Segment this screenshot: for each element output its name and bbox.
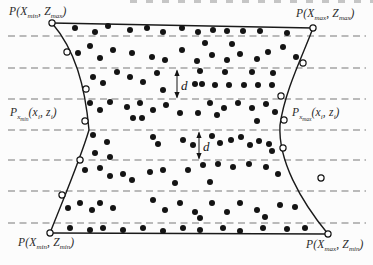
label-subscript: min bbox=[60, 243, 71, 251]
data-point bbox=[100, 225, 106, 231]
data-point bbox=[180, 225, 186, 231]
data-point bbox=[241, 82, 247, 88]
data-point bbox=[129, 177, 135, 183]
label-subscript: max bbox=[339, 14, 351, 22]
data-point bbox=[263, 164, 269, 170]
data-point bbox=[224, 28, 230, 34]
slice-thickness-marker: d bbox=[196, 132, 210, 160]
data-point bbox=[129, 50, 135, 56]
data-point bbox=[162, 57, 168, 63]
data-point bbox=[270, 70, 276, 76]
boundary-point bbox=[49, 20, 55, 26]
data-point bbox=[162, 207, 168, 213]
data-point bbox=[229, 41, 235, 47]
label-p-xmax-zmax: P(Xmax, Zmax) bbox=[296, 7, 355, 20]
label-text: , z bbox=[323, 106, 334, 118]
data-point bbox=[209, 200, 215, 206]
data-point bbox=[302, 225, 308, 231]
slice-thickness-marker: d bbox=[174, 70, 188, 99]
data-point bbox=[255, 82, 261, 88]
data-point bbox=[67, 225, 73, 231]
data-point bbox=[97, 200, 103, 206]
data-point bbox=[195, 29, 201, 35]
data-point bbox=[100, 80, 106, 86]
boundary-point bbox=[318, 175, 324, 181]
label-p-xmax-boundary-point: Pxmax(xi, zi) bbox=[292, 106, 340, 120]
data-point bbox=[127, 27, 133, 33]
label-p-xmin-zmax: P(Xmin, Zmax) bbox=[9, 5, 66, 18]
data-point bbox=[257, 28, 263, 34]
boundary-point bbox=[310, 25, 316, 31]
data-point bbox=[87, 100, 93, 106]
data-point bbox=[237, 51, 243, 57]
data-point bbox=[207, 179, 213, 185]
data-point bbox=[254, 56, 260, 62]
data-point bbox=[177, 110, 183, 116]
data-point bbox=[107, 173, 113, 179]
label-subsubscript: max bbox=[302, 117, 311, 123]
data-point bbox=[149, 54, 155, 60]
data-point bbox=[280, 44, 286, 50]
label-text: ) bbox=[70, 236, 74, 248]
boundary-point bbox=[77, 157, 83, 163]
data-point bbox=[209, 52, 215, 58]
data-point bbox=[246, 161, 252, 167]
boundary-point bbox=[280, 145, 286, 151]
data-point bbox=[217, 140, 223, 146]
data-point bbox=[92, 29, 98, 35]
data-point bbox=[249, 69, 255, 75]
data-point bbox=[75, 50, 81, 56]
data-point bbox=[202, 40, 208, 46]
data-point bbox=[97, 107, 103, 113]
data-point bbox=[97, 55, 103, 61]
label-text: P(X bbox=[306, 238, 324, 250]
data-point bbox=[65, 205, 71, 211]
data-point bbox=[293, 54, 299, 60]
data-point bbox=[160, 87, 166, 93]
data-point bbox=[222, 69, 228, 75]
data-point bbox=[179, 25, 185, 31]
data-point bbox=[224, 209, 230, 215]
data-point bbox=[284, 226, 290, 232]
data-point bbox=[192, 81, 198, 87]
label-subscript: max bbox=[324, 245, 336, 253]
data-point bbox=[254, 207, 260, 213]
data-point bbox=[262, 214, 268, 220]
data-point bbox=[139, 115, 145, 121]
data-point bbox=[89, 207, 95, 213]
label-subscript: min bbox=[349, 245, 360, 253]
label-p-xmin-zmin: P(Xmin, Zmin) bbox=[18, 236, 74, 249]
boundary-right-curve bbox=[280, 28, 328, 234]
label-subsubscript: min bbox=[20, 117, 28, 123]
boundary-point bbox=[278, 93, 284, 99]
boundary-point bbox=[59, 192, 65, 198]
data-point bbox=[215, 161, 221, 167]
data-point bbox=[90, 74, 96, 80]
label-text: , z bbox=[40, 106, 51, 118]
data-point bbox=[197, 227, 203, 233]
arrowhead-up-icon bbox=[196, 132, 201, 139]
data-point bbox=[147, 169, 153, 175]
label-text: ) bbox=[359, 238, 363, 250]
data-point bbox=[226, 82, 232, 88]
data-point bbox=[180, 137, 186, 143]
data-point bbox=[160, 167, 166, 173]
label-text: (x bbox=[29, 106, 38, 118]
boundary-point bbox=[300, 60, 306, 66]
data-point bbox=[90, 132, 96, 138]
data-point bbox=[260, 225, 266, 231]
label-text: ) bbox=[62, 5, 66, 17]
data-point bbox=[144, 25, 150, 31]
data-point bbox=[265, 49, 271, 55]
arrowhead-up-icon bbox=[174, 70, 179, 77]
data-point bbox=[155, 141, 161, 147]
data-point bbox=[220, 225, 226, 231]
data-point bbox=[238, 134, 244, 140]
label-text: , Z bbox=[326, 7, 339, 19]
label-subscript: max bbox=[314, 14, 326, 22]
data-point bbox=[154, 70, 160, 76]
data-point bbox=[207, 100, 213, 106]
label-text: , Z bbox=[38, 5, 51, 17]
data-point bbox=[140, 79, 146, 85]
data-point bbox=[197, 215, 203, 221]
